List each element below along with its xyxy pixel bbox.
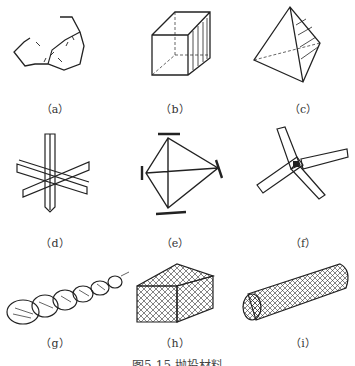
block-figure — [150, 10, 215, 78]
gabion-cylinder-figure — [240, 258, 355, 326]
tetrahedron-figure — [250, 5, 325, 85]
label-d: （d） — [35, 234, 75, 250]
figure-caption: 图5-15 抛投材料 — [0, 356, 355, 366]
tetrapod-frame-figure — [138, 128, 233, 223]
label-b: （b） — [155, 100, 195, 116]
label-a: （a） — [35, 100, 75, 116]
label-c: （c） — [283, 100, 323, 116]
rock-figure — [10, 12, 90, 72]
gabion-box-figure — [135, 262, 215, 324]
label-i: （i） — [283, 334, 323, 350]
brushwood-bundle-figure — [5, 268, 130, 328]
label-g: （g） — [35, 334, 75, 350]
label-f: （f） — [283, 234, 323, 250]
label-h: （h） — [155, 334, 195, 350]
cross-block-figure — [15, 132, 95, 217]
label-e: （e） — [155, 234, 195, 250]
four-leg-block-figure — [255, 125, 350, 210]
